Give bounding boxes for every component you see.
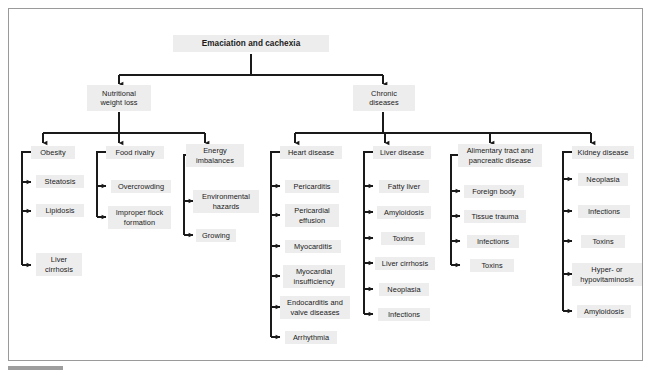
node-leaf-arrhythmia: Arrhythmia [285, 331, 337, 344]
node-leaf-infections-3: Infections [578, 205, 630, 218]
node-leaf-liver-cirrhosis: Liver cirrhosis [36, 253, 82, 276]
node-leaf-improper-flock-formation: Improper flock formation [108, 206, 171, 229]
node-leaf-overcrowding: Overcrowding [111, 180, 171, 193]
node-leaf-amyloidosis-2: Amyloidosis [577, 305, 631, 318]
node-group-heading-food-rivalry: Food rivalry [106, 146, 164, 159]
node-leaf-neoplasia: Neoplasia [379, 283, 429, 296]
node-leaf-myocarditis: Myocarditis [285, 240, 341, 253]
node-group-heading-liver-disease: Liver disease [373, 146, 431, 159]
node-chronic-diseases: Chronic diseases [353, 85, 415, 111]
node-leaf-fatty-liver: Fatty liver [379, 180, 429, 193]
node-leaf-myocardial-insufficiency: Myocardial insufficiency [283, 265, 345, 288]
node-root: Emaciation and cachexia [173, 35, 329, 52]
node-group-heading-heart-disease: Heart disease [280, 146, 342, 159]
node-leaf-toxins: Toxins [381, 232, 425, 245]
node-leaf-lipidosis: Lipidosis [36, 204, 84, 217]
node-leaf-infections-2: Infections [467, 235, 519, 248]
node-leaf-pericardial-effusion: Pericardial effusion [285, 204, 339, 227]
node-leaf-toxins-2: Toxins [470, 259, 514, 272]
node-group-heading-alimentary-pancreatic-disease: Alimentary tract and pancreatic disease [458, 144, 542, 167]
node-group-heading-kidney-disease: Kidney disease [572, 146, 634, 159]
node-leaf-steatosis: Steatosis [36, 175, 84, 188]
node-leaf-pericarditis: Pericarditis [285, 180, 339, 193]
node-leaf-endocarditis-valve-diseases: Endocarditis and valve diseases [280, 296, 350, 319]
node-nutritional-weight-loss: Nutritional weight loss [87, 85, 151, 111]
node-leaf-hyper-hypovitaminosis: Hyper- or hypovitaminosis [572, 263, 642, 286]
node-leaf-liver-cirrhosis-2: Liver cirrhosis [375, 257, 435, 270]
node-leaf-foreign-body: Foreign body [464, 185, 524, 198]
node-leaf-infections: Infections [378, 308, 430, 321]
node-group-heading-obesity: Obesity [31, 146, 75, 159]
node-leaf-amyloidosis: Amyloidosis [377, 206, 431, 219]
node-leaf-neoplasia-2: Neoplasia [578, 173, 628, 186]
node-leaf-toxins-3: Toxins [581, 235, 625, 248]
node-leaf-environmental-hazards: Environmental hazards [193, 190, 259, 213]
node-leaf-tissue-trauma: Tissue trauma [464, 210, 526, 223]
node-leaf-growing: Growing [196, 229, 236, 242]
node-group-heading-energy-imbalances: Energy imbalances [186, 144, 244, 167]
